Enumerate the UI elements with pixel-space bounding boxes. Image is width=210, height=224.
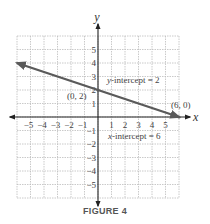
- coordinate-plane: −5−4−3−2−112345−5−4−3−2−112345 y x (0, 2…: [0, 0, 210, 224]
- point-label-x-intercept: (6, 0): [171, 100, 191, 110]
- y-tick-label: 5: [92, 45, 97, 55]
- y-tick-label: 4: [92, 58, 97, 68]
- figure-caption: FIGURE 4: [0, 206, 210, 216]
- x-tick-label: −2: [64, 120, 74, 130]
- axes: [10, 24, 190, 206]
- line-series: [17, 63, 181, 119]
- y-tick-label: −2: [86, 139, 96, 149]
- x-intercept-annotation: x-intercept = 6: [107, 131, 161, 141]
- y-intercept-annotation: y-intercept = 2: [106, 75, 160, 85]
- x-tick-label: 2: [123, 120, 128, 130]
- point-marker: [177, 115, 180, 118]
- x-tick-label: 1: [109, 120, 114, 130]
- y-axis-label: y: [93, 10, 100, 24]
- y-tick-label: −4: [86, 166, 96, 176]
- y-tick-label: 3: [92, 72, 97, 82]
- x-tick-label: 4: [150, 120, 155, 130]
- x-tick-label: −4: [37, 120, 47, 130]
- point-label-y-intercept: (0, 2): [67, 91, 87, 101]
- y-tick-label: −1: [86, 126, 96, 136]
- y-tick-label: −3: [86, 153, 96, 163]
- x-tick-label: −5: [24, 120, 34, 130]
- x-tick-label: 5: [163, 120, 168, 130]
- point-marker: [96, 88, 99, 91]
- x-axis-label: x: [192, 110, 199, 124]
- x-tick-label: −3: [51, 120, 61, 130]
- y-tick-label: 1: [92, 99, 97, 109]
- x-tick-label: 3: [136, 120, 141, 130]
- y-tick-label: −5: [86, 180, 96, 190]
